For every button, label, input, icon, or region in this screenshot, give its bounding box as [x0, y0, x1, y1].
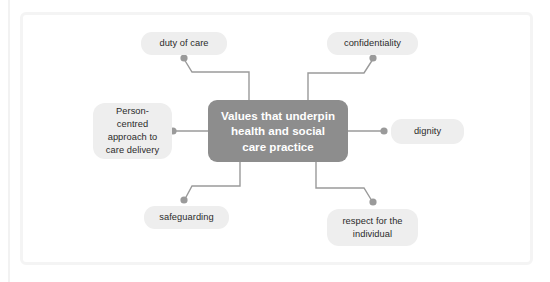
central-node-label: Values that underpin health and social c… [221, 108, 335, 155]
connector-respect [316, 162, 372, 201]
node-confidentiality-label: confidentiality [344, 37, 401, 50]
connector-dot-confidentiality [369, 54, 376, 61]
node-safeguarding[interactable]: safeguarding [144, 206, 229, 229]
connector-dot-dignity [380, 127, 387, 134]
connector-confidentiality [308, 59, 373, 100]
central-node[interactable]: Values that underpin health and social c… [208, 100, 348, 162]
connector-duty-of-care [184, 59, 249, 100]
node-duty-of-care-label: duty of care [159, 37, 208, 50]
connector-dot-respect [369, 198, 376, 205]
node-respect-for-the-individual[interactable]: respect for the individual [327, 209, 418, 246]
connector-safeguarding [185, 162, 240, 199]
node-duty-of-care[interactable]: duty of care [141, 32, 227, 55]
connector-dot-duty-of-care [180, 54, 187, 61]
node-person-centred-label: Person-centred approach to care delivery [101, 105, 164, 157]
connector-dot-safeguarding [180, 196, 187, 203]
node-confidentiality[interactable]: confidentiality [327, 32, 418, 55]
node-person-centred-approach[interactable]: Person-centred approach to care delivery [93, 103, 172, 159]
diagram-canvas: Values that underpin health and social c… [0, 0, 550, 282]
node-dignity[interactable]: dignity [391, 119, 464, 144]
node-dignity-label: dignity [414, 125, 441, 138]
node-safeguarding-label: safeguarding [159, 211, 213, 224]
node-respect-label: respect for the individual [342, 215, 402, 241]
